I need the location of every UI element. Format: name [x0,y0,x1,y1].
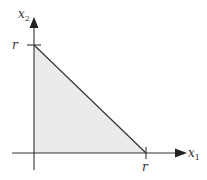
y-tick-label: r [12,38,19,52]
x-axis-label: x1 [188,146,200,162]
diagram-canvas: x2 r x1 r [0,0,207,180]
x-axis-arrow-icon [175,149,187,158]
y-axis-label: x2 [18,7,30,23]
y-axis-arrow-icon [30,17,39,28]
x-tick-label: r [142,160,149,174]
